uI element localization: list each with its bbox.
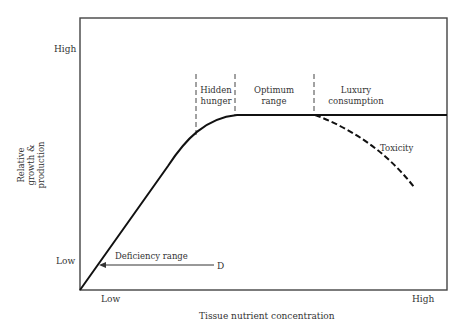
x-axis-label: Tissue nutrient concentration	[199, 311, 335, 321]
deficiency-marker-d: D	[217, 261, 224, 271]
zone-hidden-hunger-line-2: hunger	[201, 96, 233, 106]
response-curve	[80, 115, 447, 290]
plot-frame	[80, 18, 447, 290]
toxicity-label: Toxicity	[380, 143, 414, 153]
y-axis-label: Relative growth & production	[16, 141, 46, 189]
zone-luxury-consumption-line-2: consumption	[328, 96, 384, 106]
zone-hidden-hunger-line-1: Hidden	[200, 85, 232, 95]
y-tick-low: Low	[56, 256, 75, 266]
x-tick-low: Low	[101, 294, 120, 304]
zone-optimum-range-line-2: range	[261, 96, 286, 106]
y-tick-high: High	[54, 44, 76, 54]
y-axis-label-line-2: growth &	[26, 144, 36, 185]
y-axis-label-line-1: Relative	[16, 147, 26, 182]
y-axis-label-line-3: production	[36, 141, 46, 189]
nutrient-response-diagram: Relative growth & production High Low Lo…	[0, 0, 464, 324]
zone-luxury-consumption-line-1: Luxury	[341, 85, 371, 95]
x-tick-high: High	[412, 294, 434, 304]
zone-optimum-range-line-1: Optimum	[254, 85, 294, 95]
deficiency-range-label: Deficiency range	[115, 251, 188, 261]
